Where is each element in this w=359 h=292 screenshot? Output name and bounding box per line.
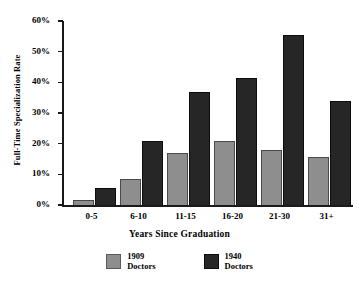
- legend-swatch-icon: [106, 254, 121, 269]
- y-axis-tick: [58, 51, 63, 52]
- bar-6-10-1909: [120, 179, 141, 205]
- bar-group: [164, 21, 211, 205]
- bar-0-5-1909: [73, 200, 94, 205]
- bar-0-5-1940: [95, 188, 116, 205]
- y-axis-tick-label: 50%: [14, 47, 50, 56]
- bar-31plus-1909: [308, 157, 329, 205]
- bar-group: [305, 21, 352, 205]
- y-axis-tick-label: 20%: [14, 139, 50, 148]
- y-axis-tick-label: 0%: [14, 200, 50, 209]
- y-axis-tick-label: 30%: [14, 108, 50, 117]
- bar-group: [117, 21, 164, 205]
- legend-label: 1940 Doctors: [225, 252, 253, 271]
- bar-11-15-1909: [167, 153, 188, 205]
- y-axis-tick: [58, 143, 63, 144]
- y-axis-tick: [58, 20, 63, 21]
- y-axis-tick-label: 60%: [14, 16, 50, 25]
- legend-item-1940[interactable]: 1940 Doctors: [204, 252, 253, 271]
- y-axis-tick-label: 40%: [14, 77, 50, 86]
- bar-16-20-1909: [214, 141, 235, 205]
- y-axis-tick: [58, 204, 63, 205]
- legend-label: 1909 Doctors: [127, 252, 155, 271]
- bar-21-30-1940: [283, 35, 304, 205]
- chart-legend: 1909 Doctors1940 Doctors: [0, 252, 359, 271]
- bar-21-30-1909: [261, 150, 282, 205]
- bar-6-10-1940: [142, 141, 163, 205]
- bar-11-15-1940: [189, 92, 210, 205]
- x-axis-tick-label: 31+: [297, 211, 357, 221]
- bar-group: [70, 21, 117, 205]
- x-axis-line: [62, 205, 353, 207]
- y-axis-tick: [58, 174, 63, 175]
- bar-group: [211, 21, 258, 205]
- legend-swatch-icon: [204, 254, 219, 269]
- legend-item-1909[interactable]: 1909 Doctors: [106, 252, 155, 271]
- bar-chart-figure: Full-Time Specialization Rate 0%10%20%30…: [0, 0, 359, 292]
- bar-16-20-1940: [236, 78, 257, 205]
- plot-area: 0%10%20%30%40%50%60% 0-56-1011-1516-2021…: [62, 21, 352, 205]
- y-axis-tick: [58, 112, 63, 113]
- y-axis-tick-label: 10%: [14, 169, 50, 178]
- bar-31plus-1940: [330, 101, 351, 205]
- bar-group: [258, 21, 305, 205]
- y-axis-tick: [58, 82, 63, 83]
- x-axis-title: Years Since Graduation: [0, 229, 359, 239]
